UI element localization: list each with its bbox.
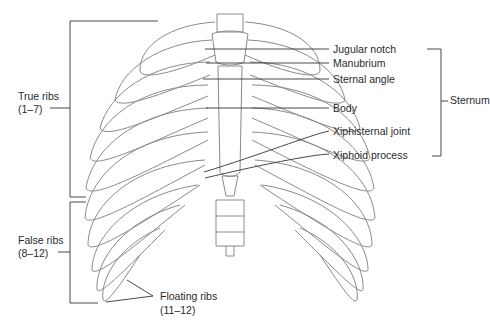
xiphoid-process-label: Xiphoid process [333, 149, 408, 162]
xiphisternal-joint-label: Xiphisternal joint [333, 125, 410, 138]
jugular-notch-label: Jugular notch [333, 43, 396, 56]
body-label: Body [333, 102, 357, 115]
sternum-label: Sternum [450, 94, 490, 107]
sternum-bracket [427, 49, 441, 156]
false-ribs-label: False ribs [18, 234, 64, 247]
manubrium-label: Manubrium [333, 57, 386, 70]
false-ribs-bracket [70, 202, 98, 303]
true-ribs-range: (1–7) [18, 103, 43, 116]
floating-ribs-label: Floating ribs [160, 290, 217, 303]
rib-cage-drawing [85, 14, 375, 301]
sternal-angle-label: Sternal angle [333, 73, 395, 86]
floating-ribs-range: (11–12) [160, 304, 195, 317]
true-ribs-bracket [70, 21, 158, 197]
true-ribs-label: True ribs [18, 90, 59, 103]
false-ribs-range: (8–12) [18, 247, 48, 260]
leader-lines [50, 21, 448, 303]
